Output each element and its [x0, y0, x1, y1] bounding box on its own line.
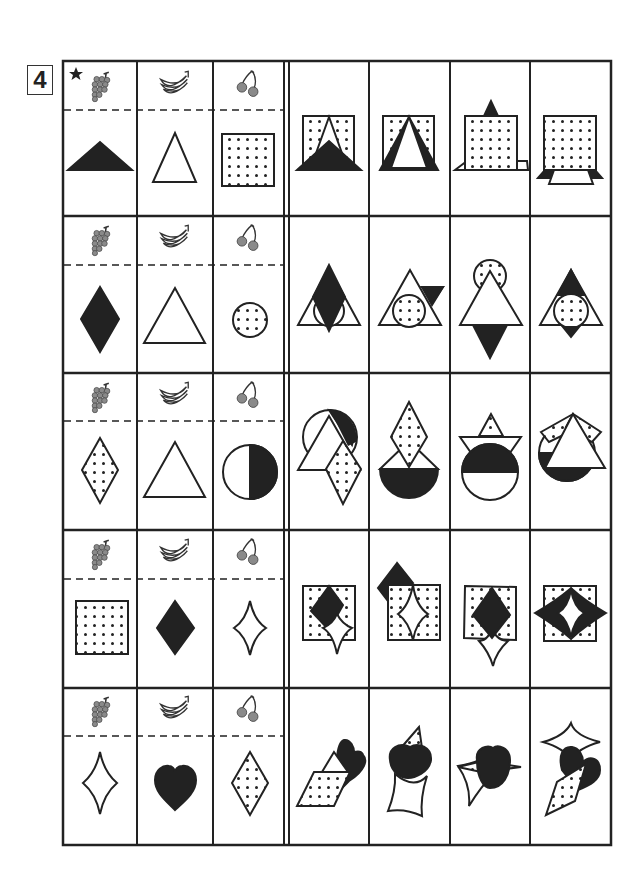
- cherry-icon: [237, 382, 258, 408]
- key-shapes-row-4: [76, 601, 266, 655]
- option-d-shape[interactable]: [543, 723, 600, 815]
- grape-icon: [92, 226, 110, 255]
- cherry-icon: [237, 71, 258, 97]
- key-shapes-row-3: [82, 438, 277, 503]
- grape-icon: [92, 383, 110, 412]
- option-a-shape[interactable]: [298, 410, 361, 504]
- cherry-icon: [237, 225, 258, 251]
- option-a-shape[interactable]: [297, 740, 365, 806]
- banana-icon: [161, 539, 189, 560]
- grape-icon: [92, 72, 110, 101]
- white-concave-diamond-icon: [83, 752, 117, 814]
- fruit-row-5: [92, 696, 258, 727]
- key-shapes-row-5: [83, 752, 268, 815]
- banana-icon: [161, 696, 189, 717]
- option-a-shape[interactable]: [303, 586, 355, 654]
- black-heart-icon: [155, 766, 196, 810]
- dotted-diamond-icon: [82, 438, 118, 503]
- grape-icon: [92, 540, 110, 569]
- dotted-diamond-icon: [232, 752, 268, 815]
- fruit-row-3: [92, 382, 258, 413]
- option-a-shape[interactable]: [297, 116, 361, 170]
- fruit-row-1: [92, 71, 258, 102]
- white-concave-diamond-icon: [234, 601, 266, 655]
- option-c-shape[interactable]: [464, 586, 516, 666]
- key-shapes-row-2: [81, 287, 267, 352]
- black-diamond-icon: [157, 601, 194, 654]
- fruit-row-4: [92, 539, 258, 570]
- options-row-5: [297, 723, 600, 816]
- white-triangle-icon: [144, 442, 205, 497]
- puzzle-grid: [0, 0, 640, 891]
- option-c-shape[interactable]: [458, 747, 521, 807]
- option-b-shape[interactable]: [379, 270, 443, 327]
- half-black-circle-icon: [223, 445, 277, 499]
- black-triangle-icon: [68, 142, 132, 170]
- option-c-shape[interactable]: [455, 101, 528, 170]
- black-diamond-icon: [81, 287, 119, 352]
- option-d-shape[interactable]: [539, 414, 605, 481]
- white-triangle-icon: [144, 288, 205, 343]
- fruit-row-2: [92, 225, 258, 256]
- option-b-shape[interactable]: [378, 563, 440, 640]
- option-b-shape[interactable]: [388, 727, 431, 816]
- dotted-square-icon: [76, 601, 128, 654]
- option-a-shape[interactable]: [298, 265, 360, 331]
- grape-icon: [92, 697, 110, 726]
- cherry-icon: [237, 539, 258, 565]
- banana-icon: [161, 382, 189, 403]
- option-b-shape[interactable]: [380, 402, 438, 498]
- options-row-3: [298, 402, 605, 504]
- dotted-circle-icon: [233, 303, 267, 337]
- option-d-shape[interactable]: [538, 116, 602, 184]
- dotted-square-icon: [222, 134, 274, 186]
- key-shapes-row-1: [68, 133, 274, 186]
- options-row-4: [303, 563, 606, 666]
- option-c-shape[interactable]: [460, 260, 522, 358]
- option-b-shape[interactable]: [380, 116, 438, 170]
- option-c-shape[interactable]: [460, 414, 521, 500]
- banana-icon: [161, 71, 189, 92]
- cherry-icon: [237, 696, 258, 722]
- banana-icon: [161, 225, 189, 246]
- star-icon: [69, 67, 83, 80]
- white-triangle-icon: [153, 133, 196, 182]
- option-d-shape[interactable]: [540, 270, 602, 337]
- option-d-shape[interactable]: [535, 586, 606, 641]
